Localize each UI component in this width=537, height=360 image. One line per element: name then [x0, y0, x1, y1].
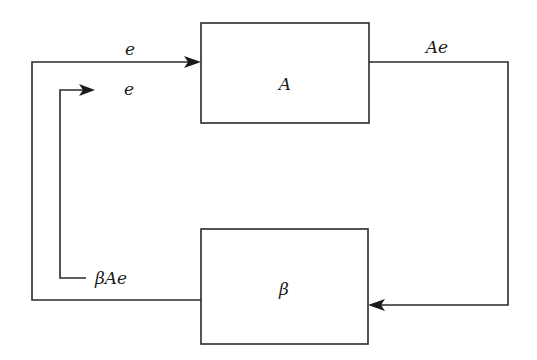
block-a-label: A: [277, 74, 291, 94]
output-path: [368, 62, 508, 311]
block-beta: β: [201, 229, 368, 344]
feedback-diagram: A β e e Ae βAe: [0, 0, 537, 360]
block-beta-label: β: [278, 279, 289, 299]
signal-e-inner: e: [124, 79, 134, 99]
signal-e-top: e: [125, 39, 135, 59]
signal-ae-output: Ae: [424, 37, 448, 57]
inner-feedback-arrow: [60, 84, 95, 278]
signal-beta-ae: βAe: [94, 268, 127, 288]
block-a: A: [201, 23, 369, 123]
outer-feedback-path: [32, 56, 201, 300]
